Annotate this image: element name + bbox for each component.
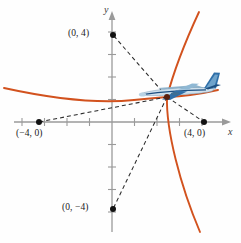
coordinate-plane-figure: (0, 4) (0, −4) (−4, 0) (4, 0) y x: [0, 0, 241, 243]
x-axis-arrowhead: [222, 119, 231, 126]
x-axis-label: x: [228, 126, 232, 137]
dot-0-4: [110, 32, 116, 38]
axes-group: [14, 11, 231, 232]
curve-lower-right-branch: [167, 97, 200, 232]
label-point-neg4-0: (−4, 0): [16, 128, 43, 138]
label-point-0-neg4: (0, −4): [62, 202, 89, 212]
dot-intersection: [164, 94, 170, 100]
figure-canvas: [0, 0, 241, 243]
dashed-line-to-0-neg4: [113, 97, 167, 209]
dot-0-neg4: [110, 206, 116, 212]
y-axis-label: y: [104, 4, 108, 15]
y-axis-arrowhead: [109, 11, 116, 20]
label-point-4-0: (4, 0): [184, 128, 205, 138]
label-point-0-4: (0, 4): [68, 28, 89, 38]
dashed-line-to-4-0: [167, 97, 204, 122]
dot-neg4-0: [36, 119, 42, 125]
dashed-line-to-0-4: [113, 35, 167, 97]
dot-4-0: [201, 119, 207, 125]
